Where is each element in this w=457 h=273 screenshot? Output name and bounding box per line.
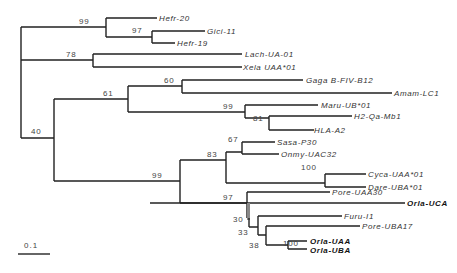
- branch-node-100-cypr: [226, 174, 366, 187]
- taxon-label: Hefr-19: [177, 39, 208, 48]
- taxon-label: Gaga B-FIV-B12: [306, 76, 373, 85]
- taxon-label: Maru-UB*01: [321, 101, 371, 110]
- taxon-label-bold: Orla-UCA: [407, 199, 448, 208]
- bootstrap-value: 99: [152, 171, 163, 180]
- branch-node-97: [180, 192, 330, 218]
- taxon-label: Furu-I1: [344, 212, 374, 221]
- taxon-label: Onmy-UAC32: [281, 150, 337, 159]
- bootstrap-value: 100: [301, 163, 317, 172]
- taxon-label: Sasa-P30: [277, 138, 317, 147]
- taxon-label: H2-Qa-Mb1: [354, 112, 401, 121]
- bootstrap-value: 97: [132, 26, 143, 35]
- bootstrap-value: 33: [238, 228, 249, 237]
- branch-node-40: [21, 99, 54, 181]
- bootstrap-value: 61: [103, 89, 114, 98]
- bootstrap-value: 38: [249, 241, 260, 250]
- taxon-label: HLA-A2: [314, 126, 346, 135]
- branch-lach-xela: [21, 54, 242, 67]
- bootstrap-value: 81: [253, 114, 264, 123]
- taxon-label: Hefr-20: [159, 14, 190, 23]
- taxon-label: Cyca-UAA*01: [368, 170, 424, 179]
- taxon-label: Pore-UBA17: [362, 222, 413, 231]
- taxon-label: Lach-UA-01: [245, 50, 294, 59]
- branch-node-99-teleost: [54, 160, 180, 203]
- taxon-label-bold: Orla-UAA: [310, 237, 351, 246]
- bootstrap-value: 83: [207, 150, 218, 159]
- branch-node-61: [54, 86, 128, 112]
- bootstrap-value: 100: [283, 239, 299, 248]
- scale-bar-label: 0.1: [24, 241, 38, 250]
- bootstrap-value: 99: [223, 102, 234, 111]
- branch-node-83: [180, 152, 226, 183]
- taxon-label: Pore-UAA30: [332, 188, 383, 197]
- bootstrap-value: 60: [164, 76, 175, 85]
- bootstrap-value: 99: [79, 17, 90, 26]
- taxon-label: Xela UAA*01: [242, 63, 296, 72]
- bootstrap-value: 78: [66, 50, 77, 59]
- bootstrap-value: 67: [228, 135, 239, 144]
- phylogenetic-tree: Hefr-20 Gici-11 Hefr-19 Lach-UA-01 Xela …: [0, 0, 457, 273]
- node-30-box: [247, 203, 250, 220]
- bootstrap-value: 97: [223, 193, 234, 202]
- taxon-label-bold: Orla-UBA: [310, 246, 351, 255]
- taxon-label: Gici-11: [207, 27, 236, 36]
- bootstrap-value: 30: [233, 215, 244, 224]
- bootstrap-value: 40: [31, 127, 42, 136]
- taxon-label: Amam-LC1: [393, 89, 439, 98]
